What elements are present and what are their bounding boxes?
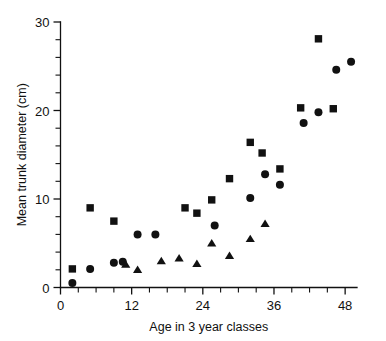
data-point-circles-6: [211, 222, 219, 230]
data-point-circles-5: [151, 230, 159, 238]
data-point-squares-12: [330, 105, 337, 112]
x-tick-label-0: 0: [57, 298, 64, 313]
data-point-squares-1: [86, 204, 93, 211]
data-point-triangles-1: [133, 266, 142, 273]
data-point-circles-10: [300, 119, 308, 127]
x-tick-label-48: 48: [338, 298, 352, 313]
data-point-triangles-2: [157, 257, 166, 264]
x-tick-label-24: 24: [196, 298, 210, 313]
data-point-triangles-4: [192, 259, 201, 266]
y-tick-label-30: 30: [35, 15, 49, 30]
data-point-squares-2: [110, 217, 117, 224]
data-point-circles-13: [347, 58, 355, 66]
data-point-triangles-8: [260, 220, 269, 227]
chart-canvas: 1020300122436480Age in 3 year classesMea…: [0, 0, 386, 341]
data-point-circles-11: [314, 108, 322, 116]
data-point-circles-8: [261, 170, 269, 178]
data-point-circles-7: [246, 194, 254, 202]
data-point-triangles-5: [207, 239, 216, 246]
x-tick-label-12: 12: [124, 298, 138, 313]
data-point-squares-5: [208, 196, 215, 203]
data-point-circles-1: [86, 265, 94, 273]
data-point-squares-11: [315, 35, 322, 42]
x-axis-title: Age in 3 year classes: [149, 320, 268, 334]
y-tick-label-20: 20: [35, 104, 49, 119]
data-point-squares-6: [226, 175, 233, 182]
data-point-circles-9: [276, 181, 284, 189]
data-point-squares-7: [247, 139, 254, 146]
y-tick-label-0: 0: [42, 281, 49, 296]
data-point-circles-2: [110, 259, 118, 267]
data-point-circles-0: [68, 279, 76, 287]
y-tick-label-10: 10: [35, 192, 49, 207]
x-tick-label-36: 36: [267, 298, 281, 313]
data-point-squares-4: [193, 209, 200, 216]
data-point-squares-8: [258, 149, 265, 156]
data-point-triangles-3: [175, 254, 184, 261]
data-point-squares-0: [69, 265, 76, 272]
data-point-squares-3: [181, 204, 188, 211]
data-point-triangles-6: [225, 251, 234, 258]
data-point-circles-4: [134, 230, 142, 238]
scatter-plot-figure: 1020300122436480Age in 3 year classesMea…: [0, 0, 386, 341]
data-point-squares-10: [297, 104, 304, 111]
y-axis-title: Mean trunk diameter (cm): [15, 83, 29, 226]
data-point-circles-12: [332, 66, 340, 74]
data-point-squares-9: [276, 165, 283, 172]
data-point-triangles-7: [246, 235, 255, 242]
